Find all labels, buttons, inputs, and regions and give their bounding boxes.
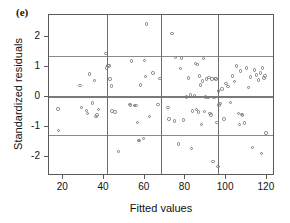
data-point: [138, 139, 141, 142]
data-point: [129, 103, 132, 106]
y-axis-tick: [44, 126, 48, 127]
data-point: [215, 121, 218, 124]
data-point: [57, 129, 60, 132]
data-point: [202, 57, 205, 60]
vertical-reference-line: [161, 15, 162, 174]
data-point: [187, 76, 190, 79]
x-axis-tick-label: 20: [47, 181, 77, 192]
y-axis-label: Standardized residuals: [12, 14, 24, 174]
data-point: [211, 160, 214, 163]
data-point: [143, 59, 146, 62]
data-point: [261, 66, 264, 69]
data-point: [216, 165, 219, 168]
y-axis-tick: [44, 156, 48, 157]
data-point: [238, 123, 241, 126]
data-point: [203, 110, 206, 113]
data-point: [151, 71, 154, 74]
data-point: [170, 32, 173, 35]
data-point: [206, 96, 209, 99]
x-axis-label: Fitted values: [48, 202, 274, 214]
data-point: [243, 121, 246, 124]
data-point: [263, 74, 266, 77]
data-point: [93, 79, 96, 82]
data-point: [185, 95, 188, 98]
data-point: [86, 112, 89, 115]
data-point: [189, 93, 192, 96]
data-point: [220, 87, 223, 90]
x-axis-tick-label: 40: [88, 181, 118, 192]
data-point: [198, 74, 201, 77]
data-point: [174, 56, 177, 59]
data-point: [229, 101, 232, 104]
data-point: [259, 71, 262, 74]
data-point: [108, 77, 111, 80]
data-point: [139, 83, 142, 86]
data-point: [245, 66, 248, 69]
data-point: [179, 67, 182, 70]
data-point: [231, 74, 234, 77]
data-point: [222, 117, 225, 120]
plot-area: [49, 15, 273, 174]
x-axis-tick: [144, 175, 145, 179]
data-point: [107, 64, 110, 67]
y-axis-tick: [44, 36, 48, 37]
data-point: [251, 146, 254, 149]
data-point: [177, 142, 180, 145]
data-point: [117, 150, 120, 153]
x-axis-tick-label: 120: [251, 181, 281, 192]
x-axis-tick: [225, 175, 226, 179]
x-axis-tick: [103, 175, 104, 179]
data-point: [264, 131, 267, 134]
x-axis-tick: [62, 175, 63, 179]
data-point: [173, 119, 176, 122]
data-point: [199, 83, 202, 86]
x-axis-tick-label: 80: [169, 181, 199, 192]
x-axis-tick: [266, 175, 267, 179]
data-point: [145, 22, 148, 25]
plot-frame: [48, 14, 274, 175]
data-point: [257, 78, 260, 81]
data-point: [239, 69, 242, 72]
data-point: [142, 137, 145, 140]
x-axis-tick-label: 100: [210, 181, 240, 192]
data-point: [241, 113, 244, 116]
data-point: [182, 118, 185, 121]
data-point: [247, 86, 250, 89]
data-point: [136, 121, 139, 124]
vertical-reference-line: [218, 15, 219, 174]
data-point: [260, 152, 263, 155]
vertical-reference-line: [107, 15, 108, 174]
data-point: [95, 113, 98, 116]
data-point: [134, 104, 137, 107]
data-point: [148, 115, 151, 118]
data-point: [200, 123, 203, 126]
data-point: [212, 96, 215, 99]
data-point: [91, 101, 94, 104]
data-point: [209, 113, 212, 116]
data-point: [78, 84, 81, 87]
data-point: [226, 85, 229, 88]
data-point: [130, 59, 133, 62]
data-point: [56, 107, 59, 110]
x-axis-tick-label: 60: [129, 181, 159, 192]
data-point: [218, 102, 221, 105]
data-point: [201, 79, 204, 82]
data-point: [253, 68, 256, 71]
data-point: [113, 110, 116, 113]
data-point: [235, 64, 238, 67]
data-point: [144, 75, 147, 78]
y-axis-tick: [44, 66, 48, 67]
data-point: [88, 72, 91, 75]
data-point: [233, 80, 236, 83]
data-point: [80, 106, 83, 109]
scatter-plot-figure: (e) 20406080100120210-1-2 Fitted values …: [0, 0, 290, 223]
data-point: [97, 108, 100, 111]
x-axis-tick: [184, 175, 185, 179]
data-point: [167, 117, 170, 120]
data-point: [190, 147, 193, 150]
data-point: [180, 56, 183, 59]
data-point: [214, 77, 217, 80]
data-point: [196, 63, 199, 66]
y-axis-tick: [44, 96, 48, 97]
data-point: [110, 84, 113, 87]
